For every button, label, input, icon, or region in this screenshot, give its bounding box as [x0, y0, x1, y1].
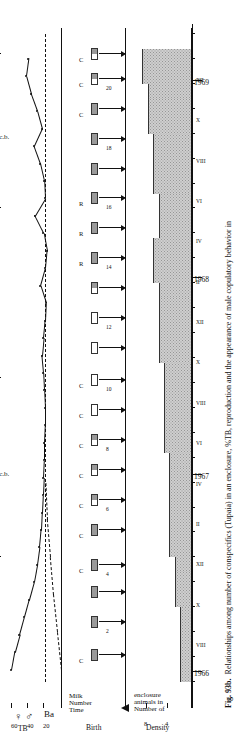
litter-box-right-half	[92, 617, 97, 622]
time-minor-tick	[192, 407, 195, 408]
time-roman-label: XII	[196, 319, 204, 325]
litter-box-left-half	[92, 228, 97, 233]
time-roman-label: IV	[196, 481, 202, 487]
litter-box-right-half	[92, 283, 97, 288]
data-line-segment	[37, 547, 40, 565]
litter-box-left-half	[92, 348, 97, 353]
data-line-segment	[26, 76, 32, 94]
figure-body: 204060 % TB m.c.b.m.c.b. ♀ ♂ Ba C2C4CC6C…	[0, 0, 205, 708]
time-minor-tick	[192, 432, 195, 433]
time-minor-tick	[192, 681, 195, 682]
time-minor-tick	[192, 257, 195, 258]
litter-box-right-half	[92, 375, 97, 380]
litter-type-label: C	[79, 567, 83, 574]
time-minor-tick	[192, 556, 195, 557]
time-roman-label: X	[196, 602, 200, 608]
birth-litter-box	[91, 133, 98, 145]
birth-baseline	[125, 28, 126, 708]
birth-arrow-head	[121, 589, 126, 595]
birth-litter-box	[91, 616, 98, 628]
time-axis: VIIIXXIIIIIVVIVIIIXXIIIIIVVIVIIIXXII1966…	[192, 0, 205, 708]
tb-tick-label: 20	[43, 722, 50, 729]
litter-box-left-half	[92, 380, 97, 385]
time-minor-tick	[192, 232, 195, 233]
birth-arrow-head	[121, 345, 126, 351]
birth-litter-box	[91, 342, 98, 354]
time-minor-tick	[192, 108, 195, 109]
mcb-bracket-cap	[0, 377, 1, 378]
birth-arrow-head	[121, 315, 126, 321]
tb-baseline	[61, 28, 62, 708]
litter-box-right-half	[92, 495, 97, 500]
density-step	[159, 283, 191, 298]
litter-box-right-half	[92, 435, 97, 440]
density-side-label-2: animals in	[134, 698, 163, 706]
data-line-segment	[35, 216, 45, 234]
litter-type-label: C	[79, 442, 83, 449]
birth-arrow-head	[121, 652, 126, 658]
litter-box-left-half	[92, 318, 97, 323]
density-step	[153, 253, 191, 283]
tb-tick-label: 40	[27, 722, 34, 729]
birth-arrow-head	[121, 467, 126, 473]
data-line-segment	[45, 408, 46, 425]
density-step	[153, 134, 191, 149]
litter-box-left-half	[92, 258, 97, 263]
tb-tick-label: 60	[11, 722, 18, 729]
litter-box-left-half	[92, 288, 97, 293]
litter-box-left-half	[92, 410, 97, 415]
density-step	[169, 453, 191, 468]
time-roman-label: X	[196, 117, 200, 123]
birth-litter-box	[91, 73, 98, 85]
data-line-segment	[39, 530, 42, 548]
tb-axis-label: TB	[18, 724, 28, 733]
birth-index-number: 10	[106, 386, 112, 392]
data-line-segment	[47, 520, 51, 557]
time-roman-label: XII	[196, 561, 204, 567]
data-line-segment	[42, 495, 44, 512]
birth-arrow-head	[121, 255, 126, 261]
litter-type-label: C	[79, 81, 83, 88]
data-line-segment	[37, 111, 43, 129]
density-step-area	[131, 0, 191, 708]
density-step	[164, 378, 191, 453]
birth-index-number: 4	[106, 571, 109, 577]
litter-type-label: C	[79, 111, 83, 118]
time-minor-tick	[192, 507, 195, 508]
rotated-figure-canvas: 204060 % TB m.c.b.m.c.b. ♀ ♂ Ba C2C4CC6C…	[0, 0, 205, 708]
time-roman-label: IV	[196, 238, 202, 244]
data-line-segment	[41, 513, 43, 530]
data-line-segment	[29, 582, 35, 600]
litter-box-right-half	[92, 104, 97, 109]
litter-box-left-half	[92, 54, 97, 59]
time-minor-tick	[192, 531, 195, 532]
litter-type-label: C	[79, 657, 83, 664]
litter-box-right-half	[92, 313, 97, 318]
litter-box-right-half	[92, 405, 97, 410]
data-line-segment	[43, 478, 45, 495]
litter-box-right-half	[92, 134, 97, 139]
birth-arrow-head	[121, 437, 126, 443]
litter-box-right-half	[92, 650, 97, 655]
panel-density: 48 Number of animals in enclosure Densit…	[130, 0, 192, 708]
time-minor-tick	[192, 631, 195, 632]
density-step	[175, 572, 191, 607]
litter-box-left-half	[92, 440, 97, 445]
time-minor-tick	[192, 581, 195, 582]
data-line-segment	[34, 565, 38, 583]
litter-box-left-half	[92, 530, 97, 535]
birth-litter-box	[91, 312, 98, 324]
panel-tb: 204060 % TB m.c.b.m.c.b. ♀ ♂ Ba	[0, 0, 62, 708]
tb-tick	[11, 703, 12, 708]
birth-row-label-number: Number	[69, 699, 92, 707]
density-step	[153, 149, 191, 194]
litter-type-label: C	[79, 472, 83, 479]
data-line-segment	[42, 338, 45, 356]
data-line-segment	[42, 355, 45, 373]
litter-box-right-half	[92, 74, 97, 79]
mcb-bracket-cap	[0, 556, 1, 557]
data-line-segment	[44, 443, 45, 460]
time-minor-tick	[192, 307, 195, 308]
tb-tick	[43, 703, 44, 708]
density-step	[148, 99, 191, 134]
